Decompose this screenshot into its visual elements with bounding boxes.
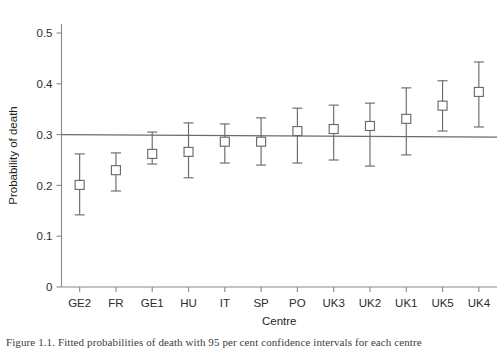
x-tick-label-PO: PO bbox=[289, 297, 306, 309]
point-marker-square bbox=[111, 166, 120, 175]
point-marker-square bbox=[257, 137, 266, 146]
y-axis-ticks: 00.10.20.30.40.5 bbox=[37, 27, 62, 293]
point-marker-square bbox=[474, 87, 483, 96]
x-tick-label-GE2: GE2 bbox=[68, 297, 91, 309]
x-tick-label-UK5: UK5 bbox=[431, 297, 453, 309]
data-point-UK4[interactable] bbox=[474, 62, 484, 127]
point-marker-square bbox=[293, 127, 302, 136]
data-point-GE1[interactable] bbox=[147, 132, 157, 164]
y-tick-label: 0.2 bbox=[37, 180, 53, 192]
y-tick-label: 0.4 bbox=[37, 78, 54, 90]
point-marker-square bbox=[329, 125, 338, 134]
y-tick-label: 0.1 bbox=[37, 230, 53, 242]
point-marker-square bbox=[220, 137, 229, 146]
reference-line bbox=[62, 135, 498, 138]
data-series-group bbox=[75, 62, 484, 215]
point-marker-square bbox=[75, 180, 84, 189]
x-tick-label-UK3: UK3 bbox=[323, 297, 345, 309]
y-tick-label: 0 bbox=[46, 281, 52, 293]
x-tick-label-GE1: GE1 bbox=[141, 297, 164, 309]
data-point-PO[interactable] bbox=[292, 108, 302, 163]
x-tick-label-UK2: UK2 bbox=[359, 297, 381, 309]
point-marker-square bbox=[365, 121, 374, 130]
x-tick-label-HU: HU bbox=[180, 297, 197, 309]
data-point-FR[interactable] bbox=[111, 153, 121, 191]
point-marker-square bbox=[184, 147, 193, 156]
y-tick-label: 0.5 bbox=[37, 27, 53, 39]
figure-caption-strip: Figure 1.1. Fitted probabilities of deat… bbox=[0, 338, 504, 350]
x-tick-label-FR: FR bbox=[108, 297, 123, 309]
y-axis-title: Probability of death bbox=[7, 106, 19, 204]
x-tick-label-UK1: UK1 bbox=[395, 297, 417, 309]
point-marker-square bbox=[438, 101, 447, 110]
y-axis-title-group: Probability of death bbox=[7, 106, 19, 204]
data-point-IT[interactable] bbox=[220, 124, 230, 163]
x-tick-label-SP: SP bbox=[253, 297, 269, 309]
figure-caption: Figure 1.1. Fitted probabilities of deat… bbox=[6, 338, 422, 348]
data-point-GE2[interactable] bbox=[75, 154, 85, 215]
data-point-UK3[interactable] bbox=[329, 105, 339, 160]
point-marker-square bbox=[402, 114, 411, 123]
data-point-UK1[interactable] bbox=[401, 88, 411, 155]
x-axis-title: Centre bbox=[262, 315, 297, 327]
data-point-HU[interactable] bbox=[184, 123, 194, 178]
x-tick-label-UK4: UK4 bbox=[468, 297, 491, 309]
data-point-SP[interactable] bbox=[256, 118, 266, 165]
figure-container: 00.10.20.30.40.5Probability of deathGE2F… bbox=[0, 0, 504, 350]
point-marker-square bbox=[148, 149, 157, 158]
probability-of-death-chart: 00.10.20.30.40.5Probability of deathGE2F… bbox=[0, 0, 504, 350]
x-axis-ticks: GE2FRGE1HUITSPPOUK3UK2UK1UK5UK4 bbox=[68, 287, 491, 309]
x-tick-label-IT: IT bbox=[220, 297, 230, 309]
y-tick-label: 0.3 bbox=[37, 129, 53, 141]
axes-group bbox=[62, 24, 498, 287]
data-point-UK2[interactable] bbox=[365, 103, 375, 166]
data-point-UK5[interactable] bbox=[438, 81, 448, 131]
